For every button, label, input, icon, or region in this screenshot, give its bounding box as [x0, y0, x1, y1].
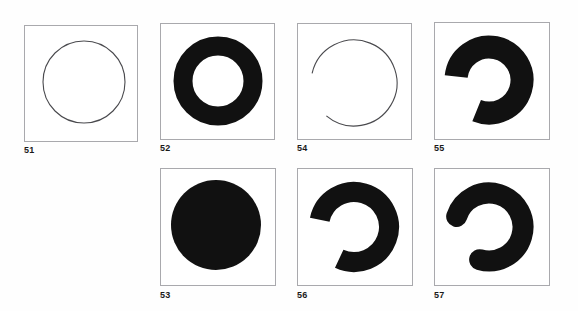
- panel-caption: 57: [434, 290, 444, 300]
- panel-51: [24, 25, 138, 142]
- panel-caption: 51: [24, 145, 34, 155]
- figure-plate: 51525455535657: [0, 0, 578, 311]
- panel-53: [160, 168, 276, 286]
- panel-caption: 53: [160, 290, 170, 300]
- panel-caption: 55: [434, 143, 444, 153]
- panel-frame: [24, 25, 138, 142]
- panel-caption: 52: [160, 143, 170, 153]
- panel-54: [297, 23, 412, 140]
- panel-52: [160, 23, 275, 140]
- panel-frame: [434, 22, 550, 140]
- panel-frame: [434, 168, 550, 286]
- panel-frame: [297, 168, 413, 286]
- panel-55: [434, 22, 550, 140]
- panel-56: [297, 168, 413, 286]
- panel-57: [434, 168, 550, 286]
- panel-caption: 56: [297, 290, 307, 300]
- panel-caption: 54: [297, 143, 307, 153]
- panel-frame: [160, 23, 275, 140]
- panel-frame: [160, 168, 276, 286]
- panel-frame: [297, 23, 412, 140]
